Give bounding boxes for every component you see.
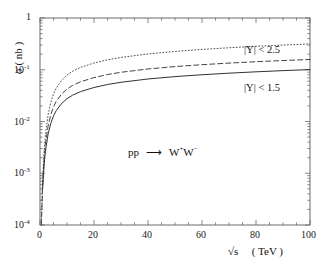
y-tick-1e-2-base: 10 xyxy=(14,116,24,127)
y-tick-label-1e-3: 10-3 xyxy=(14,166,30,178)
y-tick-label-1e-4: 10-4 xyxy=(14,218,30,230)
chart-plot-area xyxy=(0,0,330,270)
y-tick-1e-1-base: 10 xyxy=(14,64,24,75)
y-tick-1e-3-base: 10 xyxy=(14,167,24,178)
reaction-annotation: pp⟶W+W− xyxy=(128,145,198,159)
x-tick-label-40: 40 xyxy=(142,229,152,240)
x-tick-label-0: 0 xyxy=(37,229,42,240)
y-tick-1e-1-exponent: -1 xyxy=(24,63,30,71)
y-tick-1e-4-base: 10 xyxy=(14,219,24,230)
y-axis-unit: ( nb ) xyxy=(12,42,24,66)
x-axis-symbol: √s xyxy=(228,245,238,257)
curve-label-lower: |Y| < 1.5 xyxy=(244,82,280,93)
x-axis-label: √s ( TeV ) xyxy=(228,245,283,257)
reaction-w-minus-charge: − xyxy=(194,145,198,153)
x-tick-label-20: 20 xyxy=(88,229,98,240)
y-tick-1e-4-exponent: -4 xyxy=(24,218,30,226)
y-tick-label-1: 1 xyxy=(26,11,31,22)
y-tick-1e-2-exponent: -2 xyxy=(24,115,30,123)
data-curves xyxy=(41,44,310,225)
y-tick-1e-3-exponent: -3 xyxy=(24,166,30,174)
x-axis-unit: ( TeV ) xyxy=(252,245,283,257)
y-axis-label: σ ( nb ) xyxy=(12,28,24,88)
curve-label-upper: |Y| < 2.5 xyxy=(244,44,280,55)
x-tick-label-60: 60 xyxy=(196,229,206,240)
figure-container: σ ( nb ) 1 10-1 10-2 10-3 10-4 0 20 40 6… xyxy=(0,0,330,270)
x-tick-label-80: 80 xyxy=(250,229,260,240)
reaction-w-minus: W xyxy=(183,146,193,158)
y-tick-1-base: 1 xyxy=(26,11,31,22)
y-tick-label-1e-2: 10-2 xyxy=(14,115,30,127)
reaction-initial-state: pp xyxy=(128,146,139,158)
reaction-w-plus: W xyxy=(169,146,179,158)
x-tick-label-100: 100 xyxy=(301,229,316,240)
reaction-arrow-icon: ⟶ xyxy=(146,146,162,158)
y-tick-label-1e-1: 10-1 xyxy=(14,63,30,75)
